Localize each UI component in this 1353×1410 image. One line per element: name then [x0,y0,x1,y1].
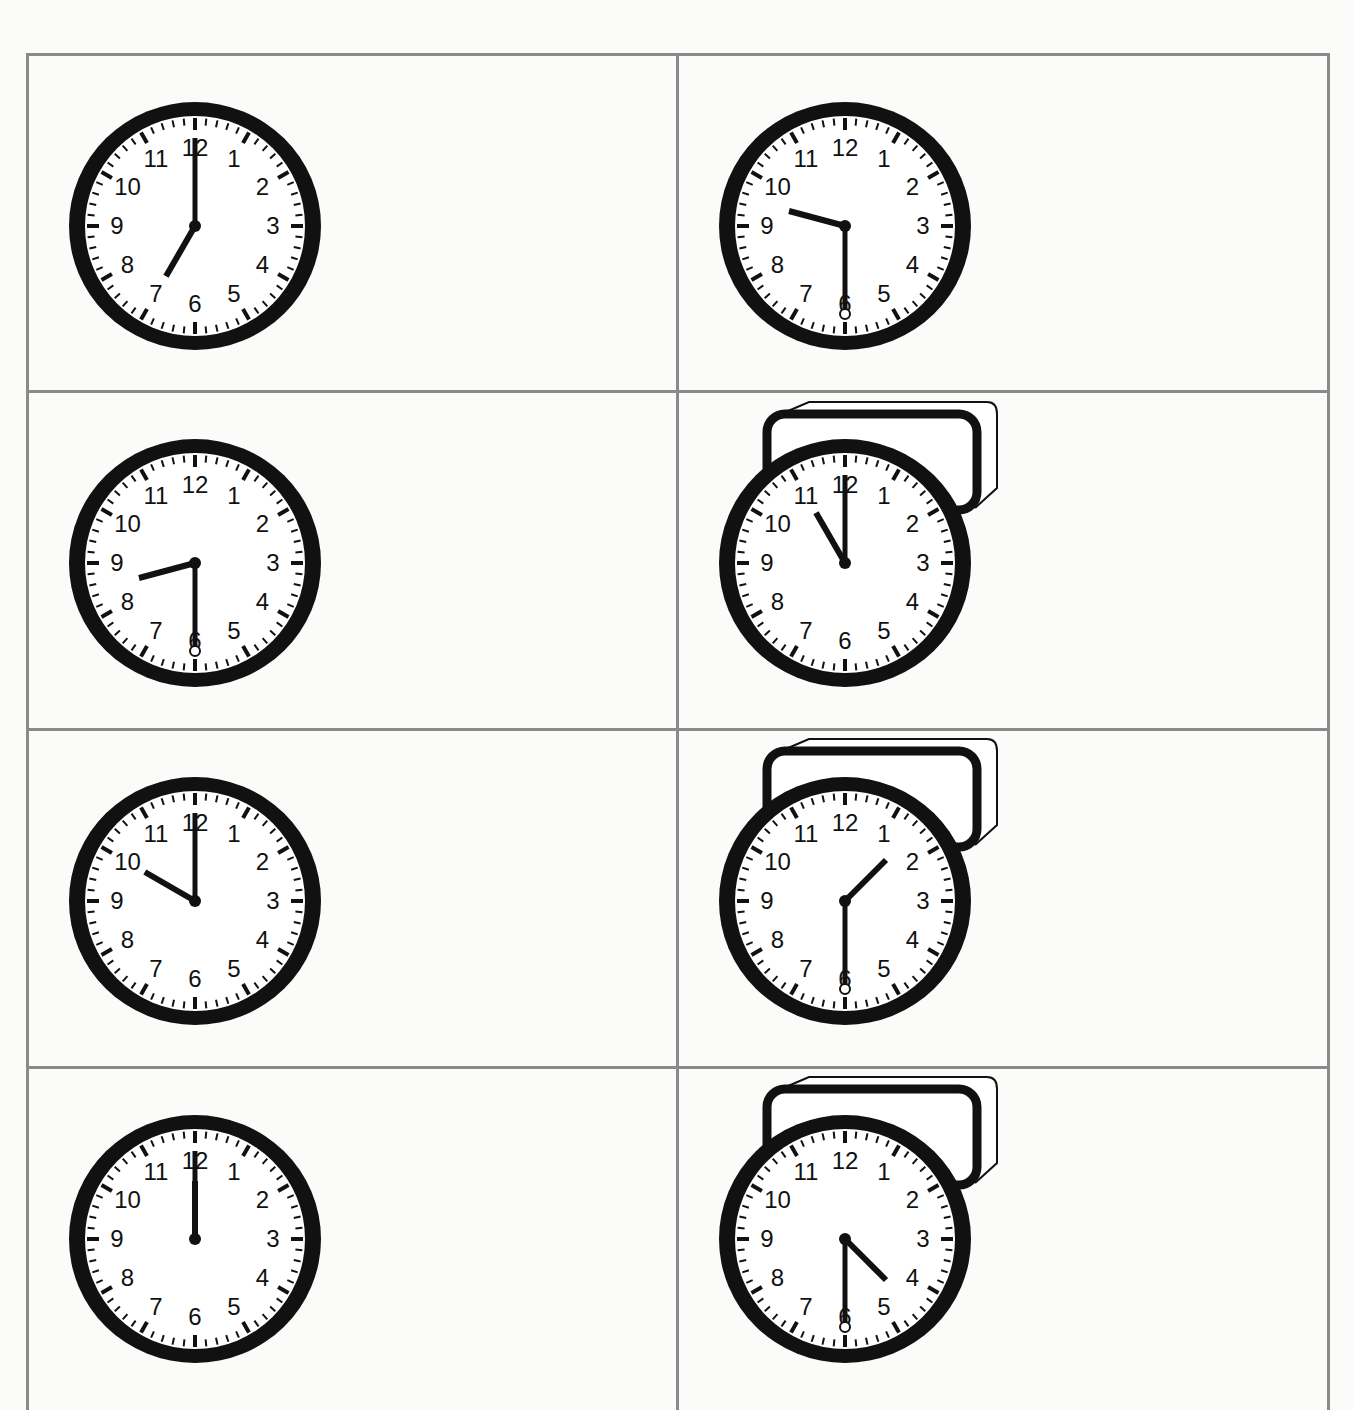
clock-numeral: 8 [771,926,784,953]
clock-numeral: 10 [114,173,141,200]
clock-numeral: 8 [121,1264,134,1291]
clock-numeral: 5 [877,1293,890,1320]
clock-numeral: 7 [149,955,162,982]
analog-clock-icon: 121234567891011 [67,775,323,1027]
clock-numeral: 5 [227,617,240,644]
clock-exercise-cell: 121234567891011 [679,56,1329,394]
digital-answer-box[interactable] [395,226,639,356]
clock-numeral: 9 [110,1225,123,1252]
clock-numeral: 4 [256,926,269,953]
clock-numeral: 8 [121,251,134,278]
clock-numeral: 10 [764,1186,791,1213]
clock-numeral: 3 [266,1225,279,1252]
digital-answer-box[interactable] [395,901,639,1031]
clock-numeral: 4 [906,251,919,278]
clock-numeral: 8 [771,251,784,278]
clock-numeral: 6 [188,1303,201,1330]
analog-clock-icon: 121234567891011 [717,437,973,689]
analog-clock-icon: 121234567891011 [67,437,323,689]
clock-numeral: 12 [182,471,209,498]
digital-answer-box[interactable] [1045,901,1289,1031]
clock-numeral: 11 [144,145,169,172]
clock-numeral: 6 [188,290,201,317]
clock-numeral: 9 [760,1225,773,1252]
analog-clock-icon: 121234567891011 [717,100,973,352]
clock-numeral: 3 [266,549,279,576]
clock-numeral: 10 [114,510,141,537]
digital-answer-box[interactable] [395,563,639,693]
clock-numeral: 10 [764,510,791,537]
clock-numeral: 7 [799,1293,812,1320]
clock-numeral: 1 [227,482,240,509]
clock-numeral: 4 [906,926,919,953]
clock-numeral: 2 [906,1186,919,1213]
clock-numeral: 4 [906,1264,919,1291]
digital-answer-box[interactable] [1045,226,1289,356]
clock-numeral: 7 [149,1293,162,1320]
analog-clock-icon: 121234567891011 [67,1113,323,1365]
clock-numeral: 9 [110,887,123,914]
clock-numeral: 3 [266,212,279,239]
clock-numeral: 3 [916,887,929,914]
clock-numeral: 10 [764,173,791,200]
clock-numeral: 11 [144,482,169,509]
clock-exercise-cell: 121234567891011 [29,1069,679,1407]
clock-numeral: 2 [906,173,919,200]
clock-numeral: 5 [877,280,890,307]
clock-numeral: 2 [256,173,269,200]
clock-numeral: 1 [877,1158,890,1185]
clock-numeral: 7 [149,280,162,307]
clock-numeral: 11 [144,820,169,847]
clock-numeral: 5 [227,1293,240,1320]
clock-numeral: 8 [121,588,134,615]
analog-clock-icon: 121234567891011 [67,100,323,352]
clock-numeral: 4 [256,1264,269,1291]
clock-numeral: 11 [144,1158,169,1185]
digital-answer-box[interactable] [1045,1239,1289,1369]
clock-numeral: 7 [799,280,812,307]
clock-numeral: 1 [877,820,890,847]
clock-numeral: 11 [794,1158,819,1185]
clock-numeral: 6 [838,627,851,654]
digital-answer-box[interactable] [395,1239,639,1369]
clock-numeral: 10 [114,848,141,875]
clock-numeral: 6 [188,965,201,992]
clock-numeral: 2 [256,1186,269,1213]
clock-exercise-cell: 121234567891011 [679,1069,1329,1407]
clock-numeral: 7 [799,955,812,982]
clock-numeral: 10 [764,848,791,875]
clock-numeral: 1 [227,145,240,172]
clock-exercise-cell: 121234567891011 [679,393,1329,731]
clock-numeral: 3 [916,549,929,576]
clock-numeral: 4 [256,251,269,278]
digital-answer-box[interactable] [1045,563,1289,693]
clock-numeral: 1 [227,1158,240,1185]
clock-numeral: 2 [906,848,919,875]
clock-exercise-cell: 121234567891011 [29,56,679,394]
clock-numeral: 5 [227,280,240,307]
clock-numeral: 5 [227,955,240,982]
clock-numeral: 2 [256,510,269,537]
clock-numeral: 8 [771,1264,784,1291]
clock-numeral: 12 [832,809,859,836]
clock-exercise-cell: 121234567891011 [29,731,679,1069]
clock-numeral: 2 [906,510,919,537]
clock-numeral: 9 [760,212,773,239]
clock-numeral: 10 [114,1186,141,1213]
clock-numeral: 1 [877,482,890,509]
clock-numeral: 12 [832,134,859,161]
clock-numeral: 9 [110,549,123,576]
clock-numeral: 4 [906,588,919,615]
clock-numeral: 9 [760,549,773,576]
clock-numeral: 3 [266,887,279,914]
clock-numeral: 5 [877,617,890,644]
clock-numeral: 8 [771,588,784,615]
clock-numeral: 11 [794,482,819,509]
clock-exercise-cell: 121234567891011 [679,731,1329,1069]
analog-clock-icon: 121234567891011 [717,1113,973,1365]
clock-numeral: 11 [794,145,819,172]
clock-numeral: 11 [794,820,819,847]
clock-numeral: 12 [832,1147,859,1174]
clock-numeral: 1 [227,820,240,847]
clock-numeral: 4 [256,588,269,615]
